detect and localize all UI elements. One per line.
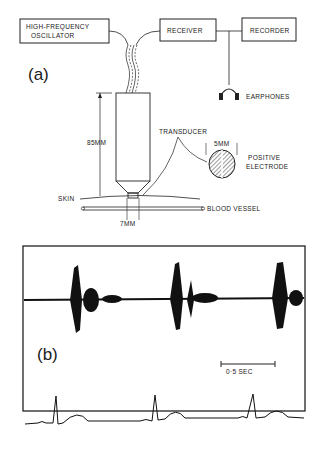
svg-text:HIGH-FREQUENCY: HIGH-FREQUENCY bbox=[26, 23, 90, 31]
svg-text:(a): (a) bbox=[28, 65, 49, 84]
doppler-diagram: HIGH-FREQUENCY OSCILLATOR RECEIVER RECOR… bbox=[0, 0, 323, 454]
receiver-block: RECEIVER bbox=[160, 19, 216, 41]
panel-b-frame bbox=[23, 246, 305, 411]
ecg-trace bbox=[25, 394, 304, 424]
svg-text:EARPHONES: EARPHONES bbox=[246, 93, 290, 100]
cable bbox=[126, 45, 139, 93]
svg-text:SKIN: SKIN bbox=[58, 195, 74, 202]
svg-text:BLOOD VESSEL: BLOOD VESSEL bbox=[207, 205, 261, 212]
svg-text:OSCILLATOR: OSCILLATOR bbox=[31, 32, 75, 39]
svg-text:0·5 SEC: 0·5 SEC bbox=[226, 368, 253, 375]
svg-text:5MM: 5MM bbox=[214, 140, 229, 147]
svg-text:RECEIVER: RECEIVER bbox=[167, 27, 203, 34]
oscillator-block: HIGH-FREQUENCY OSCILLATOR bbox=[20, 19, 109, 43]
svg-text:POSITIVE: POSITIVE bbox=[248, 154, 281, 161]
svg-text:7MM: 7MM bbox=[120, 220, 135, 227]
svg-text:ELECTRODE: ELECTRODE bbox=[246, 163, 289, 170]
earphones-icon bbox=[219, 89, 239, 100]
probe bbox=[116, 93, 150, 198]
svg-text:(b): (b) bbox=[37, 345, 58, 364]
positive-electrode bbox=[209, 150, 235, 178]
svg-text:85MM: 85MM bbox=[87, 139, 106, 146]
svg-text:TRANSDUCER: TRANSDUCER bbox=[159, 128, 207, 135]
svg-text:RECORDER: RECORDER bbox=[250, 27, 290, 34]
recorder-block: RECORDER bbox=[242, 18, 296, 41]
